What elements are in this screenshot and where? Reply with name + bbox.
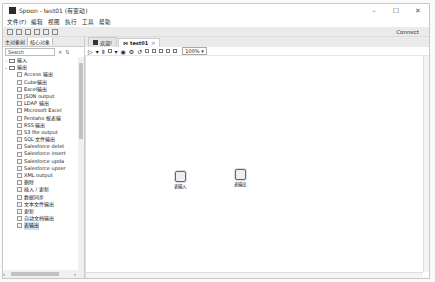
- explore-repo-icon[interactable]: [25, 29, 31, 35]
- tree-step[interactable]: LDAP 输出: [3, 100, 78, 107]
- zoom-select[interactable]: 100% ▾: [182, 47, 206, 55]
- close-tab-icon[interactable]: ✕: [151, 40, 155, 46]
- step-table-output[interactable]: 表输出: [234, 169, 246, 187]
- transformation-canvas[interactable]: 表输入 表输出: [85, 56, 429, 278]
- step-icon: [17, 187, 22, 192]
- step-icon: [17, 116, 22, 121]
- canvas-toolbar: ▷ ▾ Ⅱ ▾ ◉ ⚙ ↺ 100% ▾: [85, 47, 429, 56]
- main-toolbar: Connect: [3, 27, 429, 37]
- tree-step[interactable]: Salesforce upda: [3, 158, 78, 165]
- tree-horizontal-scrollbar[interactable]: ‹ ›: [3, 270, 84, 278]
- menu-run[interactable]: 执行: [65, 18, 77, 26]
- transformation-icon: ⋈: [123, 40, 128, 46]
- title-bar: Spoon - test01 (有变动) – ☐ ✕: [3, 4, 429, 17]
- step-icon: [17, 87, 22, 92]
- tree-step[interactable]: 更新: [3, 208, 78, 215]
- steps-tree: ›输入 ⌄输出 Access 输出 Cube输出 Excel输出 JSON ou…: [3, 57, 78, 270]
- stop-icon[interactable]: [108, 49, 112, 53]
- debug-icon[interactable]: ⚙: [129, 48, 134, 55]
- design-panel: 主对象树 核心对象 ✕ ⇅ ›输入 ⌄输出 Access 输出 Cube输出 E…: [3, 37, 85, 278]
- menu-tools[interactable]: 工具: [82, 18, 94, 26]
- welcome-icon: [93, 40, 98, 45]
- save-as-icon[interactable]: [43, 29, 49, 35]
- menu-help[interactable]: 帮助: [99, 18, 111, 26]
- tree-step[interactable]: 删除: [3, 179, 78, 186]
- canvas-horizontal-scrollbar[interactable]: [86, 272, 423, 278]
- replay-icon[interactable]: ↺: [137, 48, 142, 55]
- tree-step[interactable]: SQL 文件输出: [3, 136, 78, 143]
- tree-vertical-scrollbar[interactable]: [78, 57, 84, 270]
- tree-folder-input[interactable]: ›输入: [3, 57, 78, 64]
- tree-step[interactable]: 自动文档输出: [3, 215, 78, 222]
- step-icon: [17, 72, 22, 77]
- spoon-window: Spoon - test01 (有变动) – ☐ ✕ 文件(F) 编辑 视图 执…: [2, 3, 430, 279]
- open-file-icon[interactable]: [16, 29, 22, 35]
- tree-step[interactable]: RSS 输出: [3, 122, 78, 129]
- new-file-icon[interactable]: [7, 29, 13, 35]
- folder-icon: [9, 59, 15, 63]
- canvas-vertical-scrollbar[interactable]: [423, 56, 429, 272]
- tab-welcome[interactable]: 欢迎!: [88, 37, 117, 47]
- maximize-button[interactable]: ☐: [385, 7, 407, 15]
- tree-step[interactable]: 插入 / 更新: [3, 186, 78, 193]
- tab-test01[interactable]: ⋈test01✕: [118, 38, 160, 47]
- run-icon[interactable]: ▷: [88, 48, 93, 55]
- step-icon: [17, 216, 22, 221]
- tab-main-tree[interactable]: 主对象树: [3, 38, 28, 45]
- minimize-button[interactable]: –: [363, 7, 385, 15]
- step-icon: [17, 94, 22, 99]
- window-title: Spoon - test01 (有变动): [19, 6, 88, 15]
- expand-collapse-icon[interactable]: ⇅: [65, 49, 69, 55]
- step-icon: [17, 144, 22, 149]
- tree-step[interactable]: XML output: [3, 172, 78, 179]
- sql-icon[interactable]: [159, 49, 163, 53]
- connect-button[interactable]: Connect: [396, 29, 419, 35]
- step-icon: [17, 173, 22, 178]
- tree-step[interactable]: Cube输出: [3, 79, 78, 86]
- close-button[interactable]: ✕: [407, 7, 429, 15]
- tab-core-objects[interactable]: 核心对象: [28, 38, 53, 45]
- layers-dropdown-icon[interactable]: [52, 29, 58, 35]
- step-icon: [17, 137, 22, 142]
- explore-db-icon[interactable]: [166, 49, 170, 53]
- tree-folder-output[interactable]: ⌄输出: [3, 64, 78, 71]
- stop-dropdown-icon[interactable]: ▾: [115, 48, 118, 55]
- verify-icon[interactable]: [145, 49, 149, 53]
- tree-step[interactable]: Microsoft Excel: [3, 107, 78, 114]
- steps-search-input[interactable]: [5, 48, 55, 56]
- tree-step[interactable]: S3 file output: [3, 129, 78, 136]
- tree-step[interactable]: Salesforce insert: [3, 150, 78, 157]
- menu-view[interactable]: 视图: [48, 18, 60, 26]
- tree-step[interactable]: Excel输出: [3, 86, 78, 93]
- save-icon[interactable]: [34, 29, 40, 35]
- menu-edit[interactable]: 编辑: [31, 18, 43, 26]
- step-table-input[interactable]: 表输入: [174, 171, 186, 189]
- tree-step[interactable]: JSON output: [3, 93, 78, 100]
- menu-bar: 文件(F) 编辑 视图 执行 工具 帮助: [3, 17, 429, 27]
- step-icon: [17, 202, 22, 207]
- step-icon: [17, 152, 22, 157]
- table-input-icon: [175, 171, 186, 182]
- menu-file[interactable]: 文件(F): [7, 18, 26, 26]
- clear-search-icon[interactable]: ✕: [58, 49, 62, 55]
- scroll-right-icon[interactable]: ›: [74, 271, 76, 277]
- impact-icon[interactable]: [152, 49, 156, 53]
- step-icon: [17, 101, 22, 106]
- editor-tabs: 欢迎! ⋈test01✕: [85, 37, 429, 47]
- tree-step[interactable]: Pentaho 报表输: [3, 115, 78, 122]
- table-output-icon: [17, 223, 22, 228]
- spoon-app-icon: [9, 7, 16, 14]
- run-dropdown-icon[interactable]: ▾: [96, 48, 99, 55]
- show-results-icon[interactable]: [173, 49, 177, 53]
- preview-icon[interactable]: ◉: [121, 48, 126, 55]
- step-icon: [17, 80, 22, 85]
- pause-icon[interactable]: Ⅱ: [102, 48, 105, 55]
- step-icon: [17, 108, 22, 113]
- tree-step[interactable]: Salesforce delet: [3, 143, 78, 150]
- tree-step[interactable]: Salesforce upser: [3, 165, 78, 172]
- scroll-left-icon[interactable]: ‹: [3, 271, 5, 277]
- tree-step[interactable]: 数据同步: [3, 194, 78, 201]
- tree-step-selected[interactable]: 表输出: [3, 222, 78, 229]
- tree-step[interactable]: Access 输出: [3, 71, 78, 78]
- tree-step[interactable]: 文本文件输出: [3, 201, 78, 208]
